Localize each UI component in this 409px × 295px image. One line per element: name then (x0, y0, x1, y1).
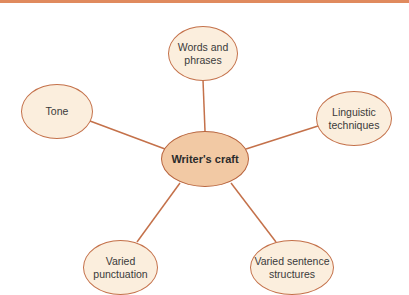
node-tone: Tone (21, 84, 93, 139)
node-label: Linguistic techniques (329, 106, 380, 132)
node-linguistic-techniques: Linguistic techniques (316, 91, 392, 146)
node-varied-punctuation: Varied punctuation (83, 240, 158, 295)
center-node-writers-craft: Writer's craft (161, 131, 249, 187)
node-label: Words and phrases (178, 41, 229, 67)
node-label: Varied punctuation (93, 255, 147, 281)
connector-tone (90, 121, 165, 149)
center-label: Writer's craft (171, 153, 238, 166)
connector-varied-sentence-structures (231, 183, 276, 242)
node-label: Varied sentence structures (254, 255, 329, 281)
connector-linguistic-techniques (246, 126, 318, 149)
connector-words-and-phrases (203, 80, 205, 131)
connector-varied-punctuation (137, 183, 180, 242)
node-varied-sentence-structures: Varied sentence structures (250, 240, 334, 295)
node-label: Tone (46, 105, 69, 118)
node-words-and-phrases: Words and phrases (168, 26, 238, 81)
